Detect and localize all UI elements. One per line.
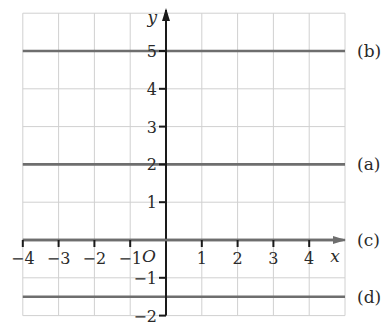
- line-label-d: (d): [357, 287, 381, 307]
- y-tick-label: 5: [147, 42, 157, 61]
- x-tick-label: 2: [233, 249, 243, 268]
- line-label-a: (a): [357, 154, 380, 174]
- y-axis-label: y: [146, 7, 157, 27]
- x-tick-label: 4: [304, 249, 314, 268]
- y-axis-arrow-icon: [162, 8, 170, 21]
- x-tick-label: 1: [197, 249, 207, 268]
- x-tick-label: −3: [47, 249, 71, 268]
- x-tick-label: 3: [268, 249, 278, 268]
- coordinate-graph: (b)(a)(c)(d)−4−3−2−11234−2−112345yxO: [0, 0, 389, 332]
- x-axis-label: x: [330, 246, 340, 266]
- x-axis-arrow-icon: [333, 236, 346, 244]
- y-tick-label: 2: [147, 155, 157, 174]
- y-tick-label: −2: [133, 307, 157, 326]
- y-tick-label: 3: [147, 118, 157, 137]
- origin-label: O: [142, 246, 156, 266]
- y-tick-label: 1: [147, 193, 157, 212]
- x-tick-label: −2: [83, 249, 107, 268]
- x-tick-label: −4: [11, 249, 35, 268]
- line-label-b: (b): [357, 41, 381, 61]
- line-label-c: (c): [357, 230, 380, 250]
- x-tick-label: −1: [118, 249, 142, 268]
- y-tick-label: −1: [133, 269, 157, 288]
- y-tick-label: 4: [147, 80, 157, 99]
